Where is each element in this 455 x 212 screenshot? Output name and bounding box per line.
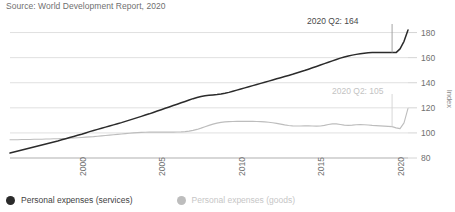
- legend-marker-icon-goods: [177, 196, 186, 205]
- chart-figure: Source: World Development Report, 2020 8…: [0, 0, 455, 212]
- x-axis-tick-label: 2010: [237, 157, 247, 176]
- legend-item-services[interactable]: Personal expenses (services): [6, 195, 133, 205]
- x-axis-tick-label: 2005: [157, 157, 167, 176]
- chart-legend: Personal expenses (services) Personal ex…: [6, 192, 339, 208]
- series-line-goods: [10, 108, 408, 139]
- y-axis-tick-label: 100: [421, 128, 435, 138]
- legend-label-goods: Personal expenses (goods): [192, 195, 295, 205]
- annotation-goods: 2020 Q2: 105: [332, 86, 384, 96]
- chart-plot-area: 80100120140160180 Index 2000200520102015…: [0, 14, 455, 162]
- y-axis-tick-label: 180: [421, 28, 435, 38]
- x-axis-tick-label: 2015: [316, 157, 326, 176]
- y-axis-tick-label: 80: [421, 153, 430, 163]
- line-chart-svg: [0, 14, 455, 162]
- source-note: Source: World Development Report, 2020: [6, 1, 166, 12]
- y-axis-title: Index: [445, 90, 454, 108]
- y-axis-tick-label: 160: [421, 53, 435, 63]
- legend-label-services: Personal expenses (services): [21, 195, 133, 205]
- legend-marker-icon-services: [6, 196, 15, 205]
- legend-item-goods[interactable]: Personal expenses (goods): [177, 195, 295, 205]
- y-axis-tick-label: 140: [421, 78, 435, 88]
- y-axis-tick-label: 120: [421, 103, 435, 113]
- annotation-services: 2020 Q2: 164: [307, 16, 359, 26]
- y-tick-marks: [408, 33, 417, 158]
- x-axis-tick-label: 2000: [78, 157, 88, 176]
- x-axis-tick-label: 2020: [396, 157, 406, 176]
